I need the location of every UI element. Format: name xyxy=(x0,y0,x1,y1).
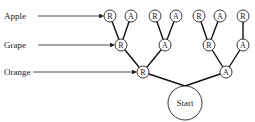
node-label: R xyxy=(118,41,124,50)
node-label: A xyxy=(162,41,168,50)
node-label: R xyxy=(206,41,212,50)
apple-node-r: R xyxy=(104,10,116,22)
level-label-grape: Grape xyxy=(4,40,26,50)
start-label: Start xyxy=(177,98,194,108)
apple-node-a: A xyxy=(214,10,226,22)
level-label-orange: Orange xyxy=(4,67,31,77)
decision-tree-diagram: AppleGrapeOrange RARARARRARARA Start xyxy=(0,0,255,122)
node-label: A xyxy=(240,41,246,50)
node-label: R xyxy=(152,12,158,21)
node-label: R xyxy=(240,12,246,21)
orange-node-a: A xyxy=(220,66,232,78)
grape-node-r: R xyxy=(115,39,127,51)
node-label: A xyxy=(217,12,223,21)
node-label: A xyxy=(223,68,229,77)
grape-node-r: R xyxy=(203,39,215,51)
apple-node-r: R xyxy=(193,10,205,22)
tree-edge xyxy=(185,72,226,86)
apple-node-a: A xyxy=(170,10,182,22)
apple-node-r: R xyxy=(237,10,249,22)
tree-nodes: RARARARRARARA xyxy=(104,10,249,78)
start-node: Start xyxy=(168,86,202,120)
orange-node-r: R xyxy=(137,66,149,78)
apple-node-r: R xyxy=(149,10,161,22)
tree-edge xyxy=(143,72,185,86)
node-label: R xyxy=(140,68,146,77)
level-label-apple: Apple xyxy=(4,11,26,21)
grape-node-a: A xyxy=(159,39,171,51)
grape-node-a: A xyxy=(237,39,249,51)
apple-node-a: A xyxy=(125,10,137,22)
node-label: A xyxy=(173,12,179,21)
node-label: R xyxy=(196,12,202,21)
node-label: A xyxy=(128,12,134,21)
node-label: R xyxy=(107,12,113,21)
